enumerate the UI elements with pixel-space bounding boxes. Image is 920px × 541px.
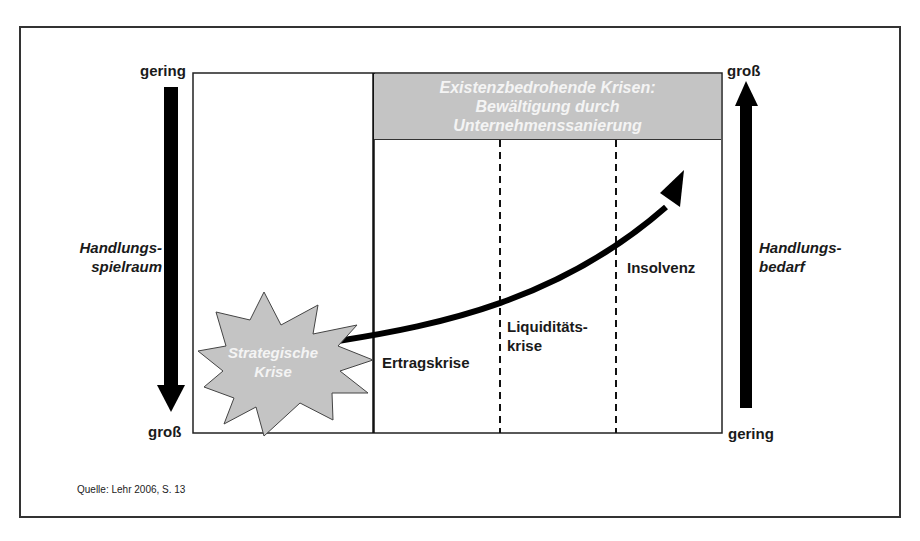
phase-insolvenz: Insolvenz [627,259,695,276]
existential-crises-banner: Existenzbedrohende Krisen: Bewältigung d… [374,74,721,140]
right-axis-top-label: groß [727,62,760,79]
left-axis-title: Handlungs- spielraum [70,238,162,276]
strategic-crisis-label: Strategische Krise [218,343,328,381]
source-citation: Quelle: Lehr 2006, S. 13 [77,484,185,495]
escalation-arrow-icon [338,170,684,341]
phase-liquiditaetskrise: Liquiditäts- krise [507,317,588,355]
left-axis-bottom-label: groß [148,423,181,440]
right-axis-bottom-label: gering [728,425,774,442]
arrow-up-icon [735,81,758,408]
phase-ertragskrise: Ertragskrise [382,354,470,371]
right-axis-title: Handlungs- bedarf [759,238,842,276]
left-axis-top-label: gering [140,62,186,79]
